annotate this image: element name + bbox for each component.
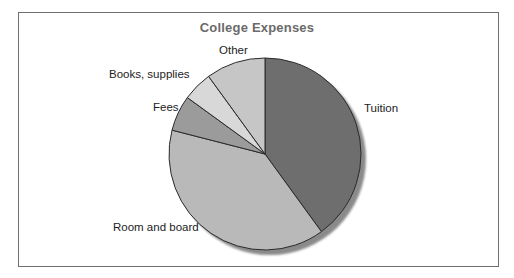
pie-chart (0, 0, 514, 278)
label-fees: Fees (153, 101, 179, 113)
label-room-and-board: Room and board (113, 221, 199, 233)
label-tuition: Tuition (364, 102, 398, 114)
label-books-supplies: Books, supplies (109, 68, 190, 80)
label-other: Other (219, 44, 248, 56)
